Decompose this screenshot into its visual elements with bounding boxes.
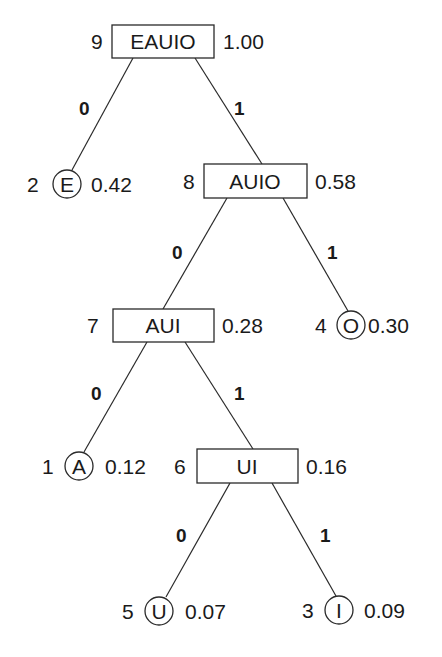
node-probability: 1.00 <box>223 30 264 53</box>
bit-label-aui-a: 0 <box>91 383 102 404</box>
leaf-probability: 0.12 <box>105 455 146 478</box>
bit-label-aui-ui: 1 <box>234 383 245 404</box>
node-ui: 6 UI 0.16 <box>174 449 347 483</box>
node-label: EAUIO <box>130 30 195 53</box>
node-order: 9 <box>91 30 103 53</box>
node-order: 7 <box>87 314 99 337</box>
leaf-e: 2 E 0.42 <box>27 170 132 198</box>
leaf-o: 4 O 0.30 <box>315 311 409 339</box>
leaf-order: 1 <box>42 455 54 478</box>
node-probability: 0.16 <box>306 455 347 478</box>
node-probability: 0.28 <box>222 314 263 337</box>
leaf-order: 4 <box>315 314 327 337</box>
leaf-probability: 0.30 <box>368 314 409 337</box>
bit-label-ui-i: 1 <box>320 525 331 546</box>
node-order: 8 <box>183 170 195 193</box>
node-eauio: 9 EAUIO 1.00 <box>91 25 264 58</box>
leaf-order: 5 <box>122 600 134 623</box>
leaf-label: U <box>151 600 166 623</box>
node-label: UI <box>237 455 258 478</box>
leaf-label: A <box>72 455 86 478</box>
leaf-label: E <box>60 173 74 196</box>
leaf-order: 2 <box>27 173 39 196</box>
leaf-label: I <box>336 599 342 622</box>
leaf-a: 1 A 0.12 <box>42 452 146 480</box>
bit-label-auio-o: 1 <box>327 242 338 263</box>
leaf-probability: 0.09 <box>364 599 405 622</box>
node-auio: 8 AUIO 0.58 <box>183 164 356 198</box>
node-aui: 7 AUI 0.28 <box>87 309 263 342</box>
bit-label-eauio-auio: 1 <box>234 98 245 119</box>
node-label: AUIO <box>229 170 280 193</box>
leaf-order: 3 <box>302 599 314 622</box>
bit-label-eauio-e: 0 <box>79 98 90 119</box>
leaf-label: O <box>343 314 359 337</box>
edge-eauio-auio <box>195 58 262 164</box>
node-label: AUI <box>145 314 180 337</box>
huffman-tree-diagram: 0 1 0 1 0 1 0 1 9 EAUIO 1.00 8 AUIO 0.58… <box>0 0 442 657</box>
node-probability: 0.58 <box>315 170 356 193</box>
node-order: 6 <box>174 455 186 478</box>
leaf-i: 3 I 0.09 <box>302 596 405 624</box>
bit-label-auio-aui: 0 <box>172 242 183 263</box>
leaf-probability: 0.42 <box>91 173 132 196</box>
leaf-u: 5 U 0.07 <box>122 597 226 625</box>
leaf-probability: 0.07 <box>185 600 226 623</box>
bit-label-ui-u: 0 <box>176 525 187 546</box>
edge-auio-o <box>283 198 348 311</box>
